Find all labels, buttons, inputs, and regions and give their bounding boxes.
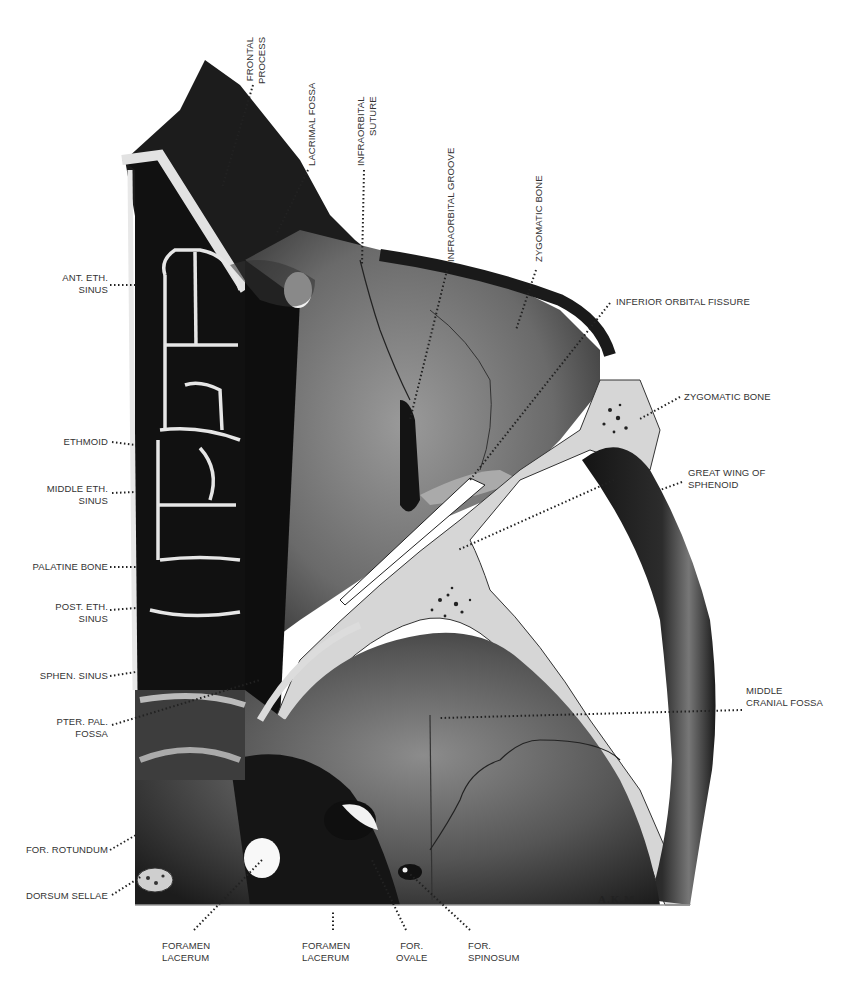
label-line: PROCESS [256,37,268,84]
label-line: DORSUM SELLAE [26,890,108,902]
label-for-spinosum: FOR. SPINOSUM [468,940,519,964]
label-line: LACRIMAL FOSSA [306,83,318,166]
label-ant-eth-sinus: ANT. ETH. SINUS [62,272,108,296]
label-ethmoid: ETHMOID [63,436,108,448]
label-line: POST. ETH. [55,601,108,613]
label-sphen-sinus: SPHEN. SINUS [40,670,108,682]
label-line: OVALE [396,952,427,964]
label-line: SPINOSUM [468,952,519,964]
label-post-eth-sinus: POST. ETH. SINUS [55,601,108,625]
label-line: ZYGOMATIC BONE [684,391,771,403]
label-line: SINUS [47,495,108,507]
label-frontal-process: FRONTAL PROCESS [244,37,268,84]
label-line: ETHMOID [63,436,108,448]
artist-signature: A.K.M. [598,893,639,905]
label-line: SPHENOID [688,479,765,491]
label-for-rotundum: FOR. ROTUNDUM [26,844,108,856]
label-dorsum-sellae: DORSUM SELLAE [26,890,108,902]
label-inferior-orbital-fissure: INFERIOR ORBITAL FISSURE [616,296,750,308]
label-line: SPHEN. SINUS [40,670,108,682]
label-line: FORAMEN [302,940,350,952]
label-infraorbital-groove: INFRAORBITAL GROOVE [445,148,457,262]
label-line: FOSSA [56,728,108,740]
label-foramen-lacerum-1: FORAMEN LACERUM [162,940,210,964]
label-middle-eth-sinus: MIDDLE ETH. SINUS [47,483,108,507]
label-line: PALATINE BONE [33,561,108,573]
label-line: MIDDLE [746,685,823,697]
label-line: FOR. ROTUNDUM [26,844,108,856]
label-zygomatic-bone-top: ZYGOMATIC BONE [533,175,545,262]
label-line: LACERUM [302,952,350,964]
label-line: INFRAORBITAL [355,96,367,166]
label-line: SINUS [62,284,108,296]
label-pter-pal-fossa: PTER. PAL. FOSSA [56,716,108,740]
anatomical-illustration [0,0,853,988]
label-line: PTER. PAL. [56,716,108,728]
label-line: ZYGOMATIC BONE [533,175,545,262]
label-infraorbital-suture: INFRAORBITAL SUTURE [355,96,379,166]
label-line: INFERIOR ORBITAL FISSURE [616,296,750,308]
label-line: SUTURE [367,96,379,166]
label-line: CRANIAL FOSSA [746,697,823,709]
label-line: ANT. ETH. [62,272,108,284]
label-middle-cranial-fossa: MIDDLE CRANIAL FOSSA [746,685,823,709]
label-line: GREAT WING OF [688,467,765,479]
label-great-wing-sphenoid: GREAT WING OF SPHENOID [688,467,765,491]
label-line: SINUS [55,613,108,625]
label-lacrimal-fossa: LACRIMAL FOSSA [306,83,318,166]
label-palatine-bone: PALATINE BONE [33,561,108,573]
label-for-ovale: FOR. OVALE [396,940,427,964]
label-zygomatic-bone-right: ZYGOMATIC BONE [684,391,771,403]
label-line: FOR. [468,940,519,952]
label-line: INFRAORBITAL GROOVE [445,148,457,262]
label-line: FOR. [396,940,427,952]
label-foramen-lacerum-2: FORAMEN LACERUM [302,940,350,964]
label-line: FORAMEN [162,940,210,952]
label-line: LACERUM [162,952,210,964]
label-line: FRONTAL [244,37,256,84]
label-line: MIDDLE ETH. [47,483,108,495]
